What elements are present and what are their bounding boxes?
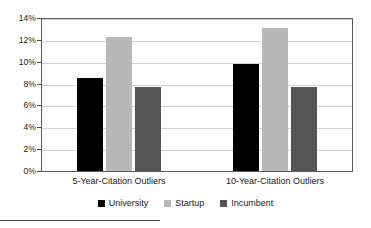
y-axis-tick-mark [37,105,41,106]
bar-incumbent [135,87,161,171]
bar-startup [262,28,288,171]
y-axis-tick-label: 8% [24,79,37,89]
bar-university [233,64,259,171]
bar-startup [106,37,132,171]
legend-swatch-icon [98,200,105,207]
y-axis-tick-mark [37,149,41,150]
y-axis-tick-label: 0% [24,166,37,176]
y-axis-tick-label: 14% [19,13,36,23]
y-axis-tick-label: 2% [24,144,37,154]
legend-item-university: University [98,198,149,208]
bars-layer [41,18,353,172]
bar-chart-figure: 0%2%4%6%8%10%12%14% UniversityStartupInc… [0,0,371,228]
legend-item-incumbent: Incumbent [220,198,273,208]
x-axis-category-label: 10-Year-Citation Outliers [197,176,353,186]
y-axis: 0%2%4%6%8%10%12%14% [0,18,36,172]
x-axis-category-label: 5-Year-Citation Outliers [41,176,197,186]
legend-swatch-icon [164,200,171,207]
legend-label: Startup [175,198,204,208]
legend-label: Incumbent [231,198,273,208]
y-axis-tick-mark [37,40,41,41]
bar-incumbent [291,87,317,171]
chart-legend: UniversityStartupIncumbent [0,198,371,208]
legend-item-startup: Startup [164,198,204,208]
y-axis-tick-label: 10% [19,57,36,67]
y-axis-tick-label: 12% [19,35,36,45]
y-axis-tick-mark [37,171,41,172]
bar-university [77,78,103,171]
legend-swatch-icon [220,200,227,207]
y-axis-tick-mark [37,62,41,63]
y-axis-tick-mark [37,18,41,19]
legend-label: University [109,198,149,208]
y-axis-tick-label: 4% [24,122,37,132]
y-axis-tick-label: 6% [24,100,37,110]
bottom-divider [0,220,160,221]
y-axis-tick-mark [37,127,41,128]
y-axis-tick-mark [37,84,41,85]
